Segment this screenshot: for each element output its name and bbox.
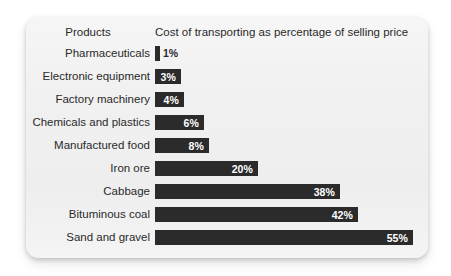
bar-row-label: Pharmaceuticals bbox=[26, 45, 150, 61]
bar-track: 1% bbox=[155, 46, 428, 61]
bar-row-label: Bituminous coal bbox=[26, 206, 150, 222]
bar-track: 6% bbox=[155, 115, 428, 130]
bar-value-label: 42% bbox=[332, 209, 358, 221]
bar: 4% bbox=[155, 92, 184, 107]
bar: 6% bbox=[155, 115, 204, 130]
chart-header: Products Cost of transporting as percent… bbox=[26, 26, 428, 42]
bar-value-label: 4% bbox=[164, 94, 184, 106]
bar-rows: Pharmaceuticals1%Electronic equipment3%F… bbox=[26, 45, 428, 252]
bar-track: 8% bbox=[155, 138, 428, 153]
bar-row-label: Manufactured food bbox=[26, 137, 150, 153]
bar-row-label: Factory machinery bbox=[26, 91, 150, 107]
bar-row: Iron ore20% bbox=[26, 160, 428, 183]
column-header-measure: Cost of transporting as percentage of se… bbox=[155, 26, 408, 38]
bar-value-label: 6% bbox=[184, 117, 204, 129]
bar-value-label: 8% bbox=[189, 140, 209, 152]
bar-row: Electronic equipment3% bbox=[26, 68, 428, 91]
bar-row-label: Electronic equipment bbox=[26, 68, 150, 84]
bar-row: Sand and gravel55% bbox=[26, 229, 428, 252]
bar: 38% bbox=[155, 184, 340, 199]
bar-track: 42% bbox=[155, 207, 428, 222]
bar: 8% bbox=[155, 138, 209, 153]
bar-track: 4% bbox=[155, 92, 428, 107]
bar-row-label: Iron ore bbox=[26, 160, 150, 176]
bar-row: Factory machinery4% bbox=[26, 91, 428, 114]
bar-value-label: 38% bbox=[314, 186, 340, 198]
bar-row: Pharmaceuticals1% bbox=[26, 45, 428, 68]
bar-track: 20% bbox=[155, 161, 428, 176]
bar-row: Manufactured food8% bbox=[26, 137, 428, 160]
bar: 20% bbox=[155, 161, 258, 176]
bar: 3% bbox=[155, 69, 181, 84]
bar-row-label: Chemicals and plastics bbox=[26, 114, 150, 130]
bar-row: Cabbage38% bbox=[26, 183, 428, 206]
bar-row-label: Cabbage bbox=[26, 183, 150, 199]
bar-value-label: 3% bbox=[161, 71, 181, 83]
bar-row-label: Sand and gravel bbox=[26, 229, 150, 245]
bar: 55% bbox=[155, 230, 413, 245]
bar-chart: Products Cost of transporting as percent… bbox=[26, 17, 428, 258]
bar-row: Chemicals and plastics6% bbox=[26, 114, 428, 137]
figure-root: Products Cost of transporting as percent… bbox=[0, 0, 451, 276]
chart-card: Products Cost of transporting as percent… bbox=[26, 17, 428, 258]
bar: 42% bbox=[155, 207, 358, 222]
bar-value-label: 20% bbox=[232, 163, 258, 175]
bar-row: Bituminous coal42% bbox=[26, 206, 428, 229]
bar-track: 55% bbox=[155, 230, 428, 245]
bar-value-label: 1% bbox=[163, 46, 178, 61]
column-header-products: Products bbox=[26, 26, 150, 38]
bar-value-label: 55% bbox=[387, 232, 413, 244]
bar-track: 3% bbox=[155, 69, 428, 84]
bar-track: 38% bbox=[155, 184, 428, 199]
bar: 1% bbox=[155, 46, 160, 61]
